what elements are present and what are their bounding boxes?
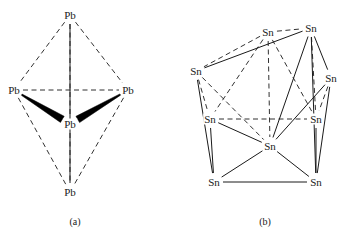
panel-a-bonds bbox=[18, 22, 123, 184]
atom-label-sn-upper-left: Sn bbox=[189, 66, 203, 77]
panel-a-caption: (a) bbox=[69, 217, 80, 227]
atom-label-pb-right: Pb bbox=[121, 85, 135, 96]
bond-solid bbox=[204, 31, 302, 68]
atom-label-sn-mid-left: Sn bbox=[203, 114, 217, 125]
bond-solid bbox=[277, 152, 309, 177]
atom-label-sn-mid-right: Sn bbox=[309, 114, 323, 125]
bond-dashed bbox=[202, 77, 263, 139]
bond-dashed bbox=[272, 40, 311, 111]
atom-label-pb-apex: Pb bbox=[63, 10, 77, 21]
panel-b-bonds bbox=[197, 29, 329, 182]
atom-label-sn-low-right: Sn bbox=[309, 177, 323, 188]
bond-dashed bbox=[74, 98, 123, 184]
atom-label-pb-left: Pb bbox=[7, 85, 21, 96]
bond-dashed bbox=[277, 29, 302, 31]
bond-solid bbox=[197, 80, 212, 173]
bond-solid bbox=[273, 37, 308, 138]
panel-b-caption: (b) bbox=[259, 217, 271, 227]
bond-dashed bbox=[76, 22, 123, 83]
atom-label-pb-center: Pb bbox=[63, 119, 77, 130]
atom-label-pb-bottom: Pb bbox=[63, 187, 77, 198]
bond-dashed bbox=[268, 41, 270, 137]
figure-root: PbPbPbPbPb(a)SnSnSnSnSnSnSnSnSn(b) bbox=[0, 0, 349, 242]
bond-dashed bbox=[19, 22, 64, 83]
bond-layer bbox=[0, 0, 349, 242]
bond-solid bbox=[314, 36, 327, 69]
bond-solid bbox=[222, 151, 263, 177]
atom-label-sn-center: Sn bbox=[263, 141, 277, 152]
atom-label-sn-top-right: Sn bbox=[304, 23, 318, 34]
bond-wedge bbox=[76, 94, 121, 123]
atom-label-sn-low-left: Sn bbox=[207, 177, 221, 188]
bond-solid bbox=[317, 87, 329, 173]
bond-dashed bbox=[204, 36, 260, 66]
bond-dashed bbox=[215, 39, 263, 111]
bond-solid bbox=[218, 123, 262, 143]
bond-dashed bbox=[18, 98, 65, 184]
bond-wedge bbox=[21, 94, 64, 122]
atom-label-sn-upper-right: Sn bbox=[324, 73, 338, 84]
atom-label-sn-top-left: Sn bbox=[261, 27, 275, 38]
